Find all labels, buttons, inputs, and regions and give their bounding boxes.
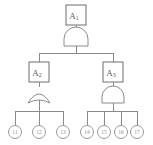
- fault-tree-canvas: A1 A2 A3: [0, 0, 153, 145]
- leaf-13-label: 13: [60, 129, 66, 135]
- node-a1-subscript: 1: [76, 15, 79, 21]
- and-gate-a3-shape[interactable]: [102, 86, 124, 103]
- leaf-node-16[interactable]: 16: [115, 126, 128, 139]
- leaf-node-11[interactable]: 11: [9, 126, 22, 139]
- fault-tree-diagram: A1 A2 A3: [0, 0, 153, 145]
- gate-and-a1[interactable]: [64, 27, 88, 46]
- leaf-11-label: 11: [12, 129, 18, 135]
- gate-and-a3[interactable]: [102, 86, 124, 103]
- leaf-15-label: 15: [101, 129, 107, 135]
- node-a3[interactable]: A3: [103, 62, 123, 82]
- node-a1[interactable]: A1: [66, 5, 86, 25]
- node-a2[interactable]: A2: [29, 62, 49, 82]
- node-a3-subscript: 3: [113, 72, 116, 78]
- leaf-node-17[interactable]: 17: [131, 126, 144, 139]
- leaf-16-label: 16: [118, 129, 124, 135]
- and-gate-shape[interactable]: [64, 27, 88, 46]
- leaf-node-12[interactable]: 12: [33, 126, 46, 139]
- leaf-17-label: 17: [134, 129, 140, 135]
- leaf-node-15[interactable]: 15: [98, 126, 111, 139]
- leaf-node-13[interactable]: 13: [57, 126, 70, 139]
- leaf-12-label: 12: [36, 129, 42, 135]
- leaf-14-label: 14: [84, 129, 90, 135]
- node-a2-subscript: 2: [39, 72, 42, 78]
- leaf-node-14[interactable]: 14: [81, 126, 94, 139]
